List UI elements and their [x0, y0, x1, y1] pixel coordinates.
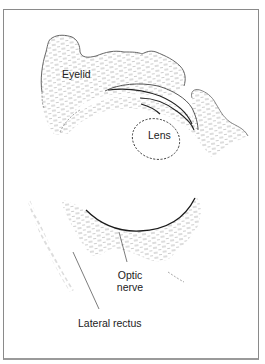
lateral-rectus-label: Lateral rectus	[78, 318, 142, 330]
lens-label: Lens	[148, 130, 171, 142]
optic-nerve-label-line1: Optic	[115, 270, 145, 282]
optic-nerve-label-line2: nerve	[115, 282, 145, 294]
optic-nerve-label: Optic nerve	[115, 270, 145, 293]
eyelid-label: Eyelid	[62, 69, 91, 81]
eye-diagram	[0, 0, 265, 364]
lateral-rectus-leader	[73, 252, 99, 309]
lateral-tissue	[191, 89, 248, 156]
eyelid-region	[41, 35, 185, 135]
